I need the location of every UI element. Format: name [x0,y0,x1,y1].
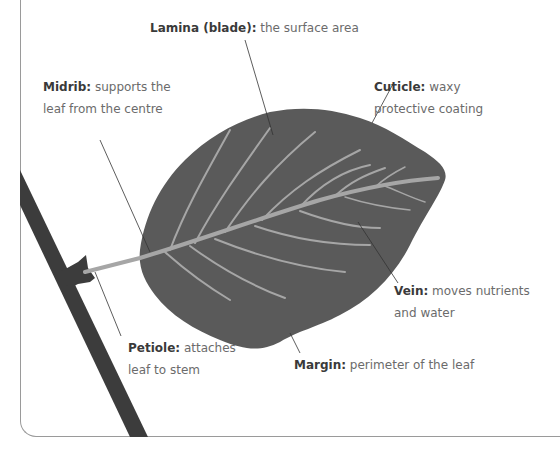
label-vein: Vein: moves nutrients and water [394,280,530,324]
petiole-term: Petiole: [128,341,180,355]
vein-desc-2: and water [394,302,530,324]
label-petiole: Petiole: attaches leaf to stem [128,337,236,381]
cuticle-desc-2: protective coating [374,98,483,120]
vein-term: Vein: [394,284,428,298]
margin-desc: perimeter of the leaf [350,358,474,372]
vein-desc-1: moves nutrients [432,284,530,298]
lamina-desc: the surface area [260,21,358,35]
label-lamina: Lamina (blade): the surface area [150,17,359,39]
petiole-desc-2: leaf to stem [128,359,236,381]
lamina-term: Lamina (blade): [150,21,256,35]
label-cuticle: Cuticle: waxy protective coating [374,76,483,120]
margin-term: Margin: [294,358,346,372]
label-margin: Margin: perimeter of the leaf [294,354,474,376]
petiole-desc-1: attaches [184,341,236,355]
stem [20,170,148,437]
cuticle-desc-1: waxy [429,80,460,94]
label-midrib: Midrib: supports the leaf from the centr… [43,76,171,120]
midrib-desc-1: supports the [95,80,171,94]
midrib-desc-2: leaf from the centre [43,98,171,120]
cuticle-term: Cuticle: [374,80,425,94]
midrib-term: Midrib: [43,80,91,94]
